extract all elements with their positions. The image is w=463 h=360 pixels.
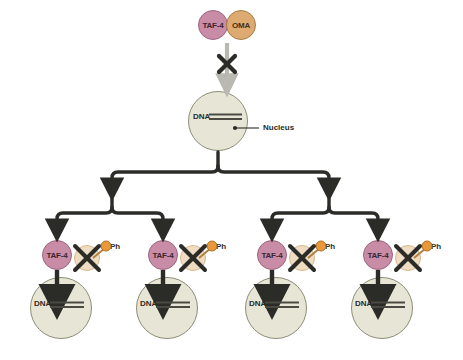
lineage-branch-level-1 xyxy=(112,166,329,188)
daughter-cell-1-activation-sign: + xyxy=(62,291,68,301)
daughter-cell-4-ph-label: Ph xyxy=(431,242,441,251)
daughter-cell-3-activation-sign: + xyxy=(277,291,283,301)
daughter-cell-4-nucleus-circle xyxy=(351,277,413,339)
daughter-cell-1-taf4-circle: TAF-4 xyxy=(42,240,72,270)
parent-dna-label: DNA xyxy=(193,112,210,121)
top-oma-label: OMA xyxy=(232,21,250,30)
parent-nucleus-circle xyxy=(188,91,248,151)
daughter-cell-2-dna-label: DNA xyxy=(140,299,157,308)
daughter-cell-4-taf4-circle: TAF-4 xyxy=(363,240,393,270)
top-taf4-label: TAF-4 xyxy=(202,21,223,30)
top-oma-circle: OMA xyxy=(226,10,256,40)
top-taf4-circle: TAF-4 xyxy=(198,10,228,40)
daughter-cell-3-oma-inactive-circle xyxy=(289,245,315,271)
daughter-cell-1-taf4-label: TAF-4 xyxy=(46,251,67,260)
daughter-cell-4-activation-sign: + xyxy=(383,291,389,301)
blocked-cross-mark xyxy=(219,56,235,72)
daughter-cell-4-dna-label: DNA xyxy=(355,299,372,308)
daughter-cell-3-dna-label: DNA xyxy=(249,299,266,308)
daughter-cell-3-ph-label: Ph xyxy=(325,242,335,251)
nucleus-callout-label: Nucleus xyxy=(263,123,294,132)
daughter-cell-2-activation-sign: + xyxy=(168,291,174,301)
daughter-cell-3-taf4-label: TAF-4 xyxy=(261,251,282,260)
daughter-cell-2-ph-label: Ph xyxy=(216,242,226,251)
lineage-branch-level-2-left xyxy=(57,199,163,229)
daughter-cell-3-taf4-circle: TAF-4 xyxy=(257,240,287,270)
daughter-cell-1-nucleus-circle xyxy=(30,277,92,339)
daughter-cell-3-nucleus-circle xyxy=(245,277,307,339)
daughter-cell-4-oma-inactive-circle xyxy=(395,245,421,271)
daughter-cell-2-nucleus-circle xyxy=(136,277,198,339)
daughter-cell-2-oma-inactive-circle xyxy=(180,245,206,271)
daughter-cell-1-ph-label: Ph xyxy=(110,242,120,251)
daughter-cell-1-dna-label: DNA xyxy=(34,299,51,308)
daughter-cell-2-taf4-label: TAF-4 xyxy=(152,251,173,260)
daughter-cell-1-oma-inactive-circle xyxy=(74,245,100,271)
lineage-branch-level-2-right xyxy=(272,199,378,229)
diagram-canvas: TAF-4 OMA DNA Nucleus TAF-4 Ph DNA + TAF… xyxy=(0,0,463,360)
daughter-cell-4-taf4-label: TAF-4 xyxy=(367,251,388,260)
daughter-cell-2-taf4-circle: TAF-4 xyxy=(148,240,178,270)
